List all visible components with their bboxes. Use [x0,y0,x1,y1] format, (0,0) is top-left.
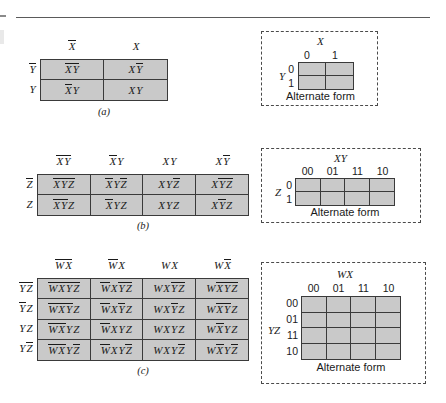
alt-c-cell-0-0[interactable] [302,297,327,313]
kmap-b-cell-1-2[interactable]: XYZ [143,195,196,215]
boolean-term: WXYZ [100,344,132,357]
literal-complemented: W [48,344,58,357]
kmap-a-cell-0-1[interactable]: XY [104,60,167,80]
kmap-a-row-header-1: Y [12,83,36,96]
alt-c-cell-1-0[interactable] [302,313,327,329]
alt-b-cell-0-1[interactable] [321,179,346,192]
alt-c-cell-0-2[interactable] [351,297,376,313]
kmap-a-cell-0-0[interactable]: XY [41,60,104,80]
alt-c-cell-2-0[interactable] [302,328,327,344]
kmap-c-cell-1-1[interactable]: WXYZ [91,299,144,319]
kmap-table-c: WXYZ WXYZ WXYZ WXYZ WXYZ WXYZ WXYZ WXYZ … [37,278,249,361]
kmap-c-cell-1-2[interactable]: WXYZ [143,299,196,319]
boolean-term: XY [162,155,177,167]
literal-complemented: Z [231,282,238,295]
alt-a-cell-1-1[interactable] [326,76,353,89]
alt-a-cell-0-1[interactable] [326,63,353,76]
alt-c-cell-0-1[interactable] [327,297,352,313]
literal-complemented: Y [118,303,125,316]
kmap-c-cell-2-2[interactable]: WXYZ [143,320,196,340]
alt-c-cell-2-1[interactable] [327,328,352,344]
kmap-c-col-header-2: WX [143,259,196,272]
literal-complemented: W [55,259,65,272]
boolean-term: WX [214,259,232,271]
alt-b-cell-1-3[interactable] [370,192,395,205]
literal-complemented: W [48,323,58,336]
kmap-b-cell-0-1[interactable]: XYZ [91,175,144,195]
literal-plain: Y [171,324,178,336]
alt-b-col-label-1: 01 [320,165,345,177]
kmap-c-cell-3-3[interactable]: WXYZ [196,340,249,360]
alt-c-cell-1-2[interactable] [351,313,376,329]
alt-c-cell-3-2[interactable] [351,344,376,360]
alt-c-col-label-0: 00 [301,282,326,294]
alt-b-cell-0-2[interactable] [345,179,370,192]
boolean-term: WXYZ [100,323,132,336]
alt-a-cell-1-0[interactable] [299,76,326,89]
kmap-b-cell-0-2[interactable]: XYZ [143,175,196,195]
kmap-c-cell-1-3[interactable]: WXYZ [196,299,249,319]
literal-complemented: W [100,323,110,336]
kmap-c-col-header-3: WX [196,259,249,272]
kmap-c-cell-0-0[interactable]: WXYZ [38,279,91,299]
literal-complemented: Y [60,178,67,191]
literal-plain: X [211,179,219,191]
literal-complemented: X [65,84,73,97]
alt-a-cell-0-0[interactable] [299,63,326,76]
alt-b-cell-1-0[interactable] [296,192,321,205]
boolean-term: Z [26,198,33,210]
alt-c-cell-2-3[interactable] [376,328,401,344]
literal-complemented: X [53,178,61,191]
kmap-table-b: XYZ XYZ XYZ XYZ XYZ XYZ XYZ XYZ [37,174,249,216]
kmap-b-cell-1-0[interactable]: XYZ [38,195,91,215]
alt-c-cell-0-3[interactable] [376,297,401,313]
boolean-term: XYZ [53,199,75,212]
boolean-term: WXYZ [153,344,185,357]
alt-b-cell-0-0[interactable] [296,179,321,192]
literal-plain: Y [118,345,125,357]
alt-c-cell-1-1[interactable] [327,313,352,329]
kmap-b-col-header-3: XY [196,155,249,168]
alt-b-cell-0-3[interactable] [370,179,395,192]
kmap-b-cell-0-3[interactable]: XYZ [196,175,249,195]
kmap-b-cell-0-0[interactable]: XYZ [38,175,91,195]
kmap-c-cell-0-1[interactable]: WXYZ [91,279,144,299]
boolean-term: WXYZ [206,323,238,336]
alt-b-cell-1-1[interactable] [321,192,346,205]
literal-plain: Z [178,324,185,336]
literal-plain: Y [136,85,143,97]
alt-c-cell-3-3[interactable] [376,344,401,360]
kmap-c-cell-2-0[interactable]: WXYZ [38,320,91,340]
alt-c-cell-2-2[interactable] [351,328,376,344]
literal-complemented: Z [173,178,180,191]
kmap-b-cell-1-3[interactable]: XYZ [196,195,249,215]
kmap-c-cell-1-0[interactable]: WXYZ [38,299,91,319]
kmap-c-cell-2-3[interactable]: WXYZ [196,320,249,340]
literal-complemented: Y [218,199,225,212]
literal-complemented: X [58,323,66,336]
boolean-term: XY [109,155,124,167]
alt-c-cell-3-1[interactable] [327,344,352,360]
alt-c-cell-1-3[interactable] [376,313,401,329]
kmap-c-cell-0-2[interactable]: WXYZ [143,279,196,299]
literal-complemented: X [216,323,224,336]
alt-a-grid [298,62,354,90]
kmap-c-cell-3-2[interactable]: WXYZ [143,340,196,360]
literal-complemented: X [216,303,224,316]
kmap-c-cell-3-1[interactable]: WXYZ [91,340,144,360]
kmap-c-cell-3-0[interactable]: WXYZ [38,340,91,360]
alt-c-cell-3-0[interactable] [302,344,327,360]
kmap-a-cell-1-0[interactable]: XY [41,80,104,100]
literal-plain: X [110,324,118,336]
boolean-term: WX [55,259,73,271]
alt-b-col-label-3: 10 [370,165,395,177]
alt-b-cell-1-2[interactable] [345,192,370,205]
kmap-b-cell-1-1[interactable]: XYZ [91,195,144,215]
kmap-c-cell-0-3[interactable]: WXYZ [196,279,249,299]
boolean-term: XY [56,155,71,167]
literal-plain: X [128,64,136,76]
kmap-c-cell-2-1[interactable]: WXYZ [91,320,144,340]
literal-plain: X [128,85,136,97]
literal-complemented: Y [218,178,225,191]
kmap-a-cell-1-1[interactable]: XY [104,80,167,100]
